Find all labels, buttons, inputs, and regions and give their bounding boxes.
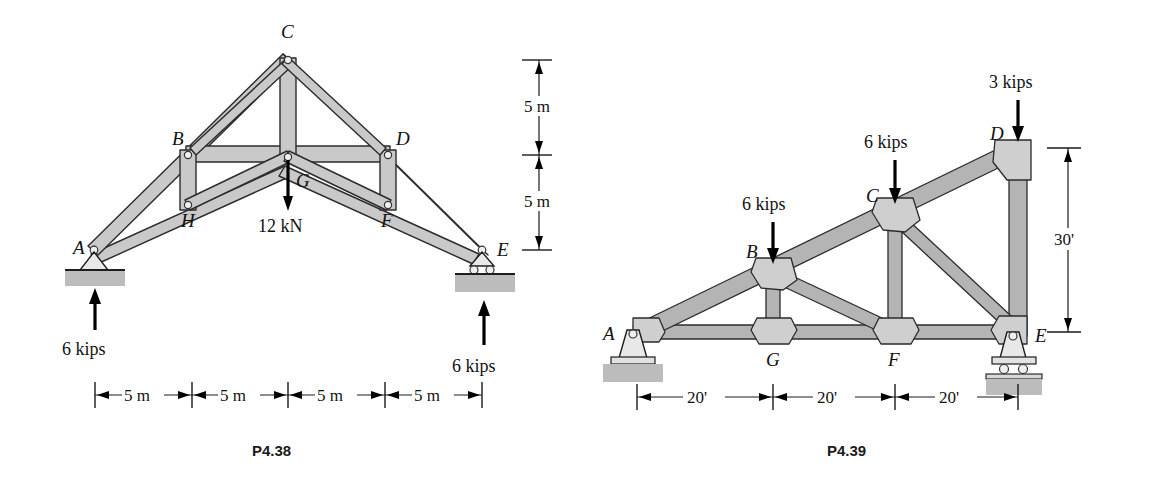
reaction-a-label: 6 kips — [62, 339, 106, 359]
dimension-vertical-p439: 30' — [1047, 148, 1088, 332]
label-joint-f-p439: F — [887, 349, 900, 370]
dimension-chain-horizontal-p438: 5 m 5 m 5 m 5 m — [95, 382, 482, 408]
dimension-chain-horizontal-p439: 20' 20' 20' — [637, 384, 1018, 410]
dim-h4-p438: 5 m — [414, 386, 440, 405]
load-12kn-label: 12 kN — [258, 216, 303, 236]
label-joint-c-p438: C — [281, 21, 294, 42]
reaction-e-p438: 6 kips — [452, 300, 496, 376]
reaction-a-p438: 6 kips — [62, 288, 106, 359]
dim-h1-p438: 5 m — [124, 386, 150, 405]
joint-pin-f — [384, 201, 391, 208]
caption-p438: P4.38 — [252, 442, 291, 459]
joint-pin-b — [184, 151, 191, 158]
caption-p439: P4.39 — [827, 442, 866, 459]
label-joint-b-p438: B — [172, 128, 184, 149]
dim-h1-p439: 20' — [687, 388, 707, 407]
label-joint-a-p439: A — [601, 323, 615, 344]
load-b-label: 6 kips — [742, 194, 786, 214]
label-joint-b-p439: B — [746, 241, 758, 262]
figure-page: A B C D E F G H 12 kN 6 kips 6 kips — [0, 0, 1151, 486]
dim-v2-p438: 5 m — [524, 192, 550, 211]
gusset-f — [873, 318, 919, 344]
dim-v1-p439: 30' — [1054, 230, 1074, 249]
label-joint-a-p438: A — [71, 237, 85, 258]
dim-h3-p438: 5 m — [317, 386, 343, 405]
dim-h2-p438: 5 m — [220, 386, 246, 405]
dimension-chain-vertical-p438: 5 m 5 m — [522, 60, 557, 250]
truss-members-p439 — [633, 140, 1027, 341]
member-bottom-chord — [635, 325, 1021, 339]
load-c-label: 6 kips — [864, 132, 908, 152]
label-joint-c-p439: C — [866, 185, 879, 206]
label-joint-h-p438: H — [180, 210, 196, 231]
truss-figure-p438: A B C D E F G H 12 kN 6 kips 6 kips — [0, 0, 575, 486]
joint-pin-g — [284, 153, 291, 160]
member-d-c-web — [282, 57, 386, 155]
joint-pin-c — [284, 56, 291, 63]
label-joint-g-p438: G — [296, 170, 310, 191]
joint-pin-h — [184, 201, 191, 208]
truss-figure-p439: A B C D E F G 6 kips 6 kips 3 kips — [575, 0, 1151, 486]
support-roller-e-p439 — [986, 332, 1042, 395]
reaction-e-label: 6 kips — [452, 356, 496, 376]
gusset-g — [751, 318, 797, 344]
label-joint-e-p439: E — [1034, 325, 1047, 346]
member-top-chord — [633, 140, 1025, 341]
dim-h2-p439: 20' — [817, 388, 837, 407]
gusset-d — [993, 140, 1031, 180]
label-joint-d-p439: D — [989, 123, 1004, 144]
load-d-label: 3 kips — [989, 72, 1033, 92]
label-joint-g-p439: G — [766, 349, 780, 370]
member-b-c-web — [190, 57, 294, 155]
dim-h3-p439: 20' — [939, 388, 959, 407]
dim-v1-p438: 5 m — [524, 97, 550, 116]
label-joint-f-p438: F — [380, 210, 393, 231]
label-joint-e-p438: E — [496, 239, 509, 260]
joint-pin-d — [384, 151, 391, 158]
label-joint-d-p438: D — [395, 128, 410, 149]
